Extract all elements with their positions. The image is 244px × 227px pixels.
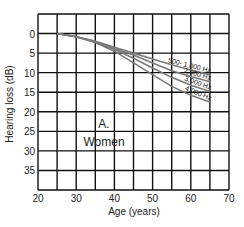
x-tick-label: 50 [147,193,159,204]
y-tick-label: 15 [24,87,36,98]
y-tick-label: 25 [24,126,36,137]
panel-sublabel: Women [83,135,124,149]
x-tick-label: 20 [32,193,44,204]
y-tick-label: 0 [29,29,35,40]
y-axis-ticks: 05101520253035 [24,29,36,177]
x-tick-label: 30 [71,193,83,204]
x-tick-label: 40 [109,193,121,204]
x-axis-label: Age (years) [108,206,160,217]
chart-grid [38,14,229,190]
y-tick-label: 30 [24,146,36,157]
x-tick-label: 70 [223,193,235,204]
hearing-loss-chart: 500- 1,000 Hz2,000 Hz3,000 Hz4,000 Hz 05… [0,0,244,227]
y-axis-label: Hearing loss (dB) [4,65,15,142]
y-tick-label: 10 [24,68,36,79]
panel-label: A. [98,117,109,131]
y-tick-label: 20 [24,107,36,118]
x-axis-ticks: 203040506070 [32,193,235,204]
y-tick-label: 35 [24,165,36,176]
x-tick-label: 60 [185,193,197,204]
y-tick-label: 5 [29,48,35,59]
